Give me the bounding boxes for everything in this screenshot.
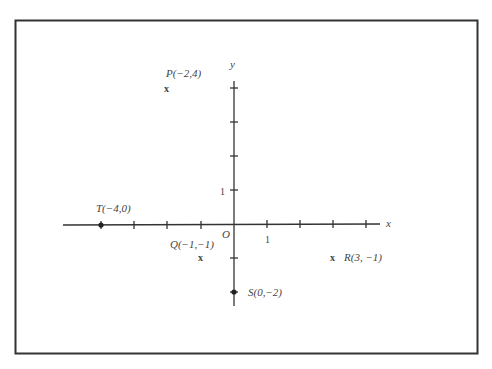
point-R-label: R(3, −1) [343, 251, 382, 264]
y-axis [230, 81, 238, 306]
y-axis-label: y [229, 58, 235, 70]
x-marker-icon: x [164, 83, 169, 94]
point-Q-label: Q(−1,−1) [170, 238, 214, 251]
point-T: T(−4,0) [96, 202, 131, 228]
dot-marker-icon [98, 222, 103, 227]
point-P: x P(−2,4) [164, 67, 202, 94]
origin-label: O [222, 228, 230, 240]
point-S-label: S(0,−2) [248, 286, 282, 299]
point-Q: x Q(−1,−1) [170, 238, 214, 263]
figure-frame [16, 21, 478, 354]
x-tick-label-1: 1 [265, 234, 270, 245]
x-axis-label: x [385, 217, 391, 229]
x-marker-icon: x [198, 252, 203, 263]
dot-marker-icon [231, 289, 236, 294]
point-S: S(0,−2) [231, 286, 282, 299]
point-T-label: T(−4,0) [96, 202, 131, 215]
point-P-label: P(−2,4) [165, 67, 202, 80]
coordinate-plane-figure: x y O 1 1 x P(−2,4) x Q(−1,−1) x R(3, −1… [0, 0, 492, 369]
y-tick-label-1: 1 [220, 186, 225, 197]
x-marker-icon: x [330, 252, 335, 263]
point-R: x R(3, −1) [330, 251, 382, 264]
